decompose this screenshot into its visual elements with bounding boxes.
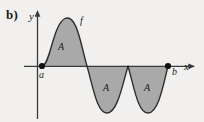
upper-limit-label-b: b <box>172 67 177 77</box>
x-axis-label: x <box>184 61 189 72</box>
figure-panel: b) y x a b f A A A <box>0 0 204 122</box>
area-label-region-2: A <box>103 83 109 93</box>
y-axis-label: y <box>29 11 34 22</box>
area-label-region-1: A <box>58 42 64 52</box>
endpoint-dot-b <box>165 63 171 69</box>
lower-limit-label-a: a <box>39 70 44 80</box>
area-label-region-3: A <box>144 83 150 93</box>
part-label: b) <box>6 8 18 21</box>
function-curve-label-f: f <box>80 16 83 26</box>
